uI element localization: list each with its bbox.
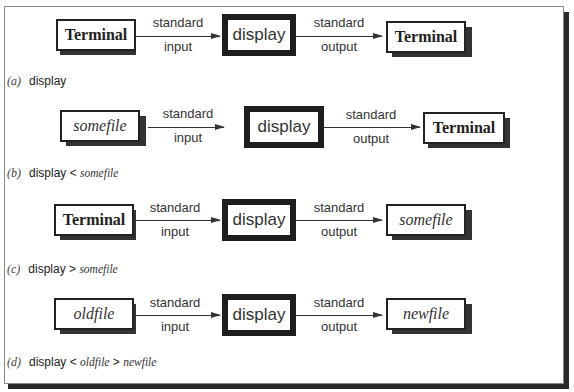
caption-d: (d)display < oldfile > newfile [7, 355, 156, 370]
caption-command: display [28, 262, 65, 276]
output-arrow-icon [296, 36, 382, 37]
source-label: Terminal [65, 26, 128, 44]
program-label: display [233, 210, 286, 230]
input-label-bottom: input [133, 39, 223, 54]
caption-command: display [29, 166, 66, 180]
caption-command: display [29, 74, 66, 88]
output-label-top: standard [294, 15, 384, 30]
output-label-bottom: output [294, 319, 384, 334]
caption-file-1: oldfile [80, 356, 109, 368]
sink-box: Terminal [386, 21, 466, 53]
output-arrow-icon [296, 315, 382, 316]
sink-label: Terminal [433, 119, 496, 137]
caption-file: somefile [79, 263, 117, 275]
frame-shadow-bottom [8, 384, 569, 389]
program-box: display [222, 199, 296, 241]
input-label-top: standard [130, 200, 220, 215]
input-arrow-icon [134, 220, 220, 221]
frame-shadow-right [564, 12, 569, 389]
input-label-bottom: input [130, 224, 220, 239]
output-label-bottom: output [294, 39, 384, 54]
caption-file-2: newfile [123, 356, 156, 368]
caption-a: (a)display [7, 74, 66, 89]
program-label: display [258, 117, 311, 137]
source-label: Terminal [63, 211, 126, 229]
caption-tag: (c) [7, 262, 20, 276]
caption-tag: (a) [7, 74, 21, 88]
caption-tag: (d) [7, 355, 21, 369]
caption-c: (c)display > somefile [7, 262, 118, 277]
sink-box: somefile [386, 204, 466, 236]
source-box: oldfile [54, 298, 134, 330]
caption-operator-1: < [70, 355, 77, 369]
caption-operator: > [69, 262, 76, 276]
source-box: Terminal [56, 19, 136, 51]
program-box: display [222, 294, 296, 336]
input-label-bottom: input [143, 130, 233, 145]
source-label: oldfile [74, 305, 115, 323]
input-label-top: standard [133, 15, 223, 30]
caption-operator-2: > [113, 355, 120, 369]
source-label: somefile [73, 117, 126, 135]
program-label: display [233, 305, 286, 325]
sink-box: newfile [386, 298, 466, 330]
program-box: display [244, 106, 324, 148]
caption-operator: < [70, 166, 77, 180]
output-arrow-icon [296, 220, 382, 221]
output-label-top: standard [294, 200, 384, 215]
input-label-bottom: input [130, 319, 220, 334]
caption-b: (b)display < somefile [7, 166, 118, 181]
sink-box: Terminal [423, 112, 505, 144]
input-arrow-icon [136, 36, 220, 37]
source-box: somefile [60, 110, 140, 142]
program-box: display [222, 14, 296, 56]
output-label-bottom: output [294, 224, 384, 239]
output-label-top: standard [326, 107, 416, 122]
output-label-top: standard [294, 295, 384, 310]
source-box: Terminal [54, 204, 134, 236]
sink-label: somefile [399, 211, 452, 229]
output-arrow-icon [324, 127, 420, 128]
caption-tag: (b) [7, 166, 21, 180]
caption-file: somefile [80, 167, 118, 179]
input-arrow-icon [134, 315, 220, 316]
input-arrow-icon [148, 127, 224, 128]
program-label: display [233, 25, 286, 45]
sink-label: newfile [403, 305, 449, 323]
sink-label: Terminal [395, 28, 458, 46]
input-label-top: standard [130, 295, 220, 310]
input-label-top: standard [143, 106, 233, 121]
output-label-bottom: output [326, 131, 416, 146]
caption-command: display [29, 355, 66, 369]
